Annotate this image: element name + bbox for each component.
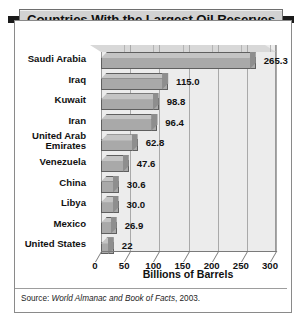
gridline [218, 45, 219, 251]
bar-value-label: 115.0 [176, 76, 199, 87]
bar: 47.6 [101, 155, 135, 172]
bar: 265.3 [101, 52, 262, 69]
gridline-top [241, 45, 242, 52]
x-tick [153, 251, 165, 259]
category-label: Venezuela [2, 157, 86, 167]
bar-top-face [101, 52, 257, 59]
category-label: Saudi Arabia [2, 54, 86, 64]
gridline [247, 45, 248, 251]
bar: 62.8 [101, 134, 144, 151]
bar-value-label: 96.4 [165, 117, 184, 128]
gridline-top [153, 45, 154, 52]
x-tick [124, 251, 136, 259]
bar-value-label: 265.3 [264, 55, 288, 66]
bar-value-label: 30.0 [127, 199, 146, 210]
x-tick [270, 251, 282, 259]
gridline [276, 45, 277, 251]
source-divider [15, 288, 287, 289]
category-label-column: Saudi ArabiaIraqKuwaitIranUnited ArabEmi… [0, 45, 86, 257]
bar-top-face [101, 93, 160, 100]
category-label: China [2, 178, 86, 188]
category-label: United States [2, 239, 86, 249]
bar-face [101, 57, 256, 69]
category-label: Iraq [2, 75, 86, 85]
bar-value-label: 47.6 [137, 158, 156, 169]
gridline-top [212, 45, 213, 52]
bar-value-label: 26.9 [125, 220, 144, 231]
source-prefix: Source: [21, 294, 52, 303]
gridline-top [270, 45, 271, 52]
gridline-top [124, 45, 125, 52]
source-note: Source: World Almanac and Book of Facts,… [21, 294, 200, 303]
plot-area: 265.3115.098.896.462.847.630.630.026.922 [90, 45, 276, 257]
source-suffix: , 2003. [175, 294, 200, 303]
bar: 30.0 [101, 196, 125, 213]
bar-value-label: 30.6 [127, 179, 146, 190]
bar-value-label: 62.8 [146, 137, 165, 148]
bar-value-label: 98.8 [167, 96, 186, 107]
bar: 115.0 [101, 73, 174, 90]
x-tick [241, 251, 253, 259]
x-tick [95, 251, 107, 259]
bar-top-face [101, 114, 158, 121]
source-title: World Almanac and Book of Facts [52, 294, 175, 303]
bar: 96.4 [101, 114, 163, 131]
bar-value-label: 22 [122, 240, 133, 251]
oil-reserves-chart-figure: Countries With the Largest Oil Reserves … [0, 0, 302, 317]
bar: 30.6 [101, 176, 125, 193]
bar-face [101, 119, 157, 131]
bar: 98.8 [101, 93, 165, 110]
x-axis-title: Billions of Barrels [90, 268, 286, 280]
bar-face [101, 98, 159, 110]
category-label: Libya [2, 198, 86, 208]
category-label: Iran [2, 116, 86, 126]
bar: 26.9 [101, 217, 123, 234]
category-label: Kuwait [2, 95, 86, 105]
bar-top-face [101, 73, 169, 80]
category-label: United ArabEmirates [2, 131, 86, 151]
gridline-top [183, 45, 184, 52]
category-label: Mexico [2, 219, 86, 229]
x-tick [183, 251, 195, 259]
x-tick [212, 251, 224, 259]
bar-face [101, 78, 168, 90]
